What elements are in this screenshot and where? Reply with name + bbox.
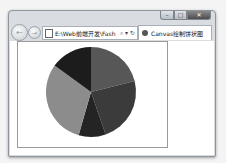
page-content [10,41,214,155]
tab-title: Canvas绘制饼状图 [151,29,203,38]
address-tools: ⌕ ▾ ↻ [120,29,137,37]
address-url[interactable]: E:\Web前端开发\Fash [55,29,120,38]
maximize-button[interactable]: □ [174,11,187,20]
pie-canvas [17,41,168,148]
pie-chart [18,42,167,147]
back-button[interactable]: ← [11,24,28,41]
close-icon: ✕ [196,12,201,18]
dropdown-icon[interactable]: ▾ [125,29,128,37]
search-icon[interactable]: ⌕ [120,29,123,37]
refresh-icon[interactable]: ↻ [130,29,135,37]
close-button[interactable]: ✕ [187,11,211,20]
forward-arrow-icon: → [32,29,37,36]
favicon-icon [142,30,148,36]
maximize-icon: □ [178,12,184,18]
minimize-button[interactable]: – [160,11,174,20]
browser-window: – □ ✕ ← → E:\Web前端开发\Fash ⌕ ▾ ↻ Canvas绘制… [8,10,216,157]
tab-active[interactable]: Canvas绘制饼状图 [138,25,212,40]
page-icon [45,29,53,38]
forward-button[interactable]: → [28,26,41,39]
address-bar[interactable]: E:\Web前端开发\Fash ⌕ ▾ ↻ [42,26,138,40]
caption-buttons: – □ ✕ [160,11,211,20]
title-bar: – □ ✕ [9,11,215,21]
minimize-icon: – [166,12,169,18]
back-arrow-icon: ← [16,28,23,37]
navigation-bar: ← → E:\Web前端开发\Fash ⌕ ▾ ↻ Canvas绘制饼状图 [9,21,215,41]
